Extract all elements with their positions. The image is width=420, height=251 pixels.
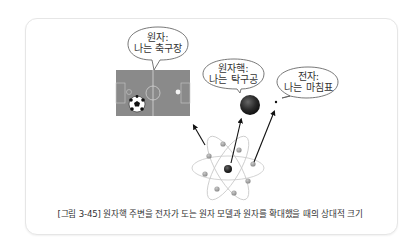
- atom-nucleus-icon: [224, 165, 232, 173]
- bubble-nucleus-line1: 원자핵:: [203, 63, 264, 74]
- bubble-nucleus-line2: 나는 탁구공: [203, 74, 264, 85]
- bubble-atom-line1: 원자:: [128, 32, 188, 43]
- bubble-electron-text: 전자: 나는 마침표: [279, 71, 338, 93]
- arrow-to-field-icon: [194, 126, 205, 145]
- period-dot-icon: [275, 101, 277, 103]
- arrow-to-electron-icon: [254, 112, 274, 162]
- bubble-atom-text: 원자: 나는 축구장: [128, 32, 188, 54]
- figure-caption: [그림 3-45] 원자핵 주변을 전자가 도는 원자 모델과 원자를 확대했을…: [0, 207, 420, 219]
- bubble-atom-line2: 나는 축구장: [128, 43, 188, 54]
- nucleus-ball-icon: [240, 95, 260, 115]
- soccer-field-icon: [116, 70, 190, 116]
- bubble-nucleus-text: 원자핵: 나는 탁구공: [203, 63, 264, 85]
- bubble-electron-line2: 나는 마침표: [279, 82, 338, 93]
- bubble-electron-line1: 전자:: [279, 71, 338, 82]
